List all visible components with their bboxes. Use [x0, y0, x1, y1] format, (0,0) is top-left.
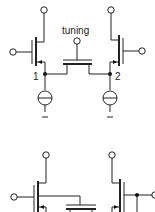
source-arrow-right-icon: [113, 60, 117, 64]
node-2-label: 2: [115, 71, 121, 82]
gate-terminal-left: [10, 49, 16, 55]
current-source-left: [38, 74, 52, 117]
drain-terminal-left: [41, 7, 47, 13]
gate-terminal-right: [139, 48, 145, 54]
transistor-top-right: [108, 7, 145, 74]
tuning-transistor-bottom: [66, 205, 96, 212]
source-arrow-bottom-left-icon: [40, 205, 44, 209]
node-1-label: 1: [33, 71, 39, 82]
transistor-top-left: [10, 7, 47, 74]
tuning-label: tuning: [62, 25, 89, 36]
gate-terminal-bottom-left: [11, 194, 17, 200]
drain-terminal-right: [108, 7, 114, 13]
source-arrow-bottom-right-icon: [114, 205, 118, 209]
transistor-bottom-right: [109, 152, 155, 212]
source-arrow-left-icon: [38, 60, 42, 64]
tuning-transistor: tuning: [45, 25, 110, 74]
tuning-terminal: [74, 38, 80, 44]
gate-terminal-bottom-right: [152, 192, 155, 198]
transistor-bottom-left: [11, 152, 80, 212]
drain-terminal-bottom-right: [109, 152, 115, 158]
drain-terminal-bottom-left: [43, 152, 49, 158]
circuit-schematic: 1 tuning 2: [0, 0, 155, 212]
